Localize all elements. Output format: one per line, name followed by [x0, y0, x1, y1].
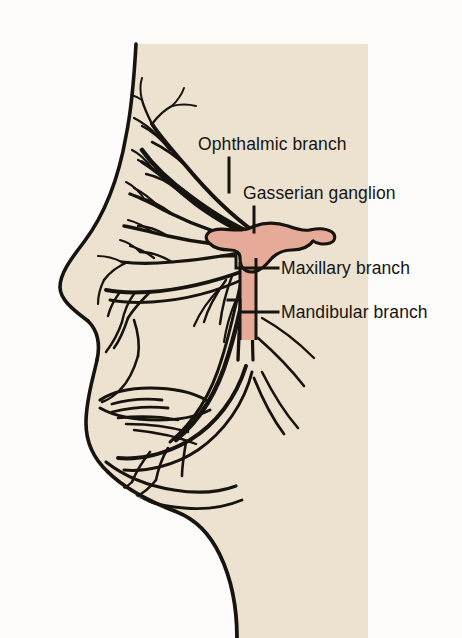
label-gasserian-ganglion: Gasserian ganglion [243, 183, 396, 204]
scanned-figure-page: arity and distinct nerve of sensory bran… [0, 0, 462, 638]
label-mandibular-branch: Mandibular branch [281, 302, 428, 323]
label-ophthalmic-branch: Ophthalmic branch [198, 134, 347, 155]
label-maxillary-branch: Maxillary branch [281, 258, 410, 279]
